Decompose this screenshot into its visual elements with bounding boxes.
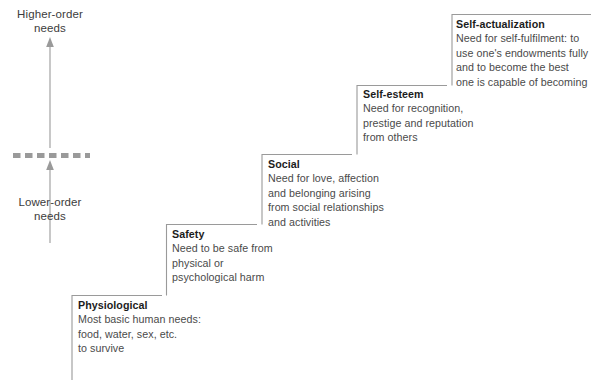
higher-order-arrow: [46, 37, 54, 148]
step-title-safety: Safety: [172, 227, 342, 241]
step-block-physiological: Physiological Most basic human needs: fo…: [78, 298, 258, 356]
step-description-safety: Need to be safe from physical or psychol…: [172, 241, 342, 284]
step-description-social: Need for love, affection and belonging a…: [268, 171, 448, 229]
lower-order-needs-label: Lower-order needs: [0, 196, 100, 223]
higher-order-needs-label: Higher-order needs: [0, 8, 100, 35]
step-description-physiological: Most basic human needs: food, water, sex…: [78, 312, 258, 355]
step-description-self-actualization: Need for self-fulfilment: to use one's e…: [456, 31, 591, 89]
step-title-physiological: Physiological: [78, 298, 258, 312]
step-block-self-esteem: Self-esteem Need for recognition, presti…: [363, 87, 538, 145]
step-title-self-actualization: Self-actualization: [456, 17, 591, 31]
step-title-self-esteem: Self-esteem: [363, 87, 538, 101]
step-description-self-esteem: Need for recognition, prestige and reput…: [363, 101, 538, 144]
step-block-self-actualization: Self-actualization Need for self-fulfilm…: [456, 17, 591, 89]
step-block-safety: Safety Need to be safe from physical or …: [172, 227, 342, 285]
step-title-social: Social: [268, 157, 448, 171]
step-block-social: Social Need for love, affection and belo…: [268, 157, 448, 229]
